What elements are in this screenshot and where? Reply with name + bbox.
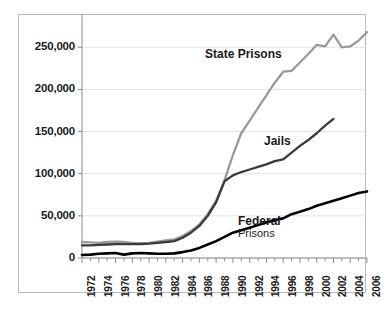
series-line-state-prisons: [82, 32, 367, 243]
x-tick-label: 1998: [304, 276, 315, 297]
x-tick-label: 1978: [136, 276, 147, 297]
series-line-jails: [82, 119, 333, 245]
x-tick-label: 1996: [287, 276, 298, 297]
x-tick-label: 1990: [237, 276, 248, 297]
federal-prisons-label: Federal Prisons: [238, 215, 281, 239]
data-series-lines: [82, 32, 367, 255]
state-prisons-label: State Prisons: [205, 48, 282, 61]
x-tick-label: 2002: [337, 276, 348, 297]
chart-container: 050,000100,000150,000200,000250,000 1972…: [0, 0, 387, 311]
x-tick-label: 1982: [170, 276, 181, 297]
x-tick-label: 2004: [354, 276, 365, 297]
x-tick-label: 1994: [270, 276, 281, 297]
series-line-federal-prisons: [82, 191, 367, 255]
x-tick-label: 1988: [220, 276, 231, 297]
y-tick-label: 50,000: [41, 209, 75, 221]
y-tick-label: 250,000: [35, 40, 75, 52]
gridlines: [82, 47, 367, 258]
y-tick-label: 150,000: [35, 125, 75, 137]
y-tick-label: 200,000: [35, 82, 75, 94]
x-tick-label: 1992: [254, 276, 265, 297]
x-tick-label: 1974: [103, 276, 114, 297]
jails-label: Jails: [264, 135, 291, 148]
federal-prisons-label-line1: Federal: [238, 215, 281, 228]
axis-ticks: [78, 47, 367, 263]
x-tick-label: 1972: [86, 276, 97, 297]
x-tick-label: 1980: [153, 276, 164, 297]
y-tick-label: 100,000: [35, 167, 75, 179]
x-tick-label: 1984: [187, 276, 198, 297]
x-tick-label: 1976: [120, 276, 131, 297]
x-tick-label: 2000: [321, 276, 332, 297]
x-tick-label: 2006: [371, 276, 382, 297]
federal-prisons-label-line2: Prisons: [238, 228, 281, 240]
x-tick-label: 1986: [203, 276, 214, 297]
y-tick-label: 0: [69, 251, 75, 263]
